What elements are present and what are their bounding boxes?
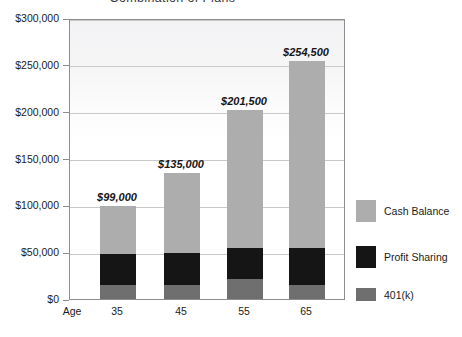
legend-label: 401(k) xyxy=(384,289,414,301)
legend-item: Cash Balance xyxy=(356,200,449,222)
legend-label: Cash Balance xyxy=(384,205,449,217)
y-axis-tick-label: $0 xyxy=(0,293,59,305)
y-axis-tick-label: $200,000 xyxy=(0,106,59,118)
y-axis-tick-mark xyxy=(63,65,69,66)
y-axis-tick-label: $300,000 xyxy=(0,12,59,24)
bar-value-label: $254,500 xyxy=(258,46,354,58)
bar-segment-cash-balance xyxy=(164,173,200,254)
bar-segment-cash-balance xyxy=(227,110,263,247)
bar-segment-401k xyxy=(289,285,325,299)
y-axis-tick-mark xyxy=(63,19,69,20)
bar-segment-profit-sharing xyxy=(100,254,136,285)
bar-stack xyxy=(227,110,263,299)
y-axis-tick-mark xyxy=(63,206,69,207)
bar-segment-profit-sharing xyxy=(227,248,263,280)
y-axis-tick-label: $100,000 xyxy=(0,199,59,211)
y-axis-tick-mark xyxy=(63,112,69,113)
x-axis-tick-label: 55 xyxy=(209,305,279,317)
legend-item: Profit Sharing xyxy=(356,246,448,268)
bar-stack xyxy=(164,173,200,299)
x-axis-tick-label: 45 xyxy=(146,305,216,317)
bar-segment-profit-sharing xyxy=(289,248,325,285)
y-axis-tick-label: $250,000 xyxy=(0,59,59,71)
x-axis-tick-label: 65 xyxy=(271,305,341,317)
bar-stack xyxy=(289,61,325,299)
bar-segment-profit-sharing xyxy=(164,253,200,285)
x-axis-title: Age xyxy=(47,305,97,317)
y-axis-tick-mark xyxy=(63,253,69,254)
y-axis-tick-mark xyxy=(63,300,69,301)
bar-segment-cash-balance xyxy=(289,61,325,248)
bar-segment-401k xyxy=(100,285,136,299)
legend-swatch-401k xyxy=(356,288,376,301)
y-axis-tick-mark xyxy=(63,159,69,160)
legend-label: Profit Sharing xyxy=(384,251,448,263)
bar-segment-401k xyxy=(164,285,200,299)
bar-segment-401k xyxy=(227,279,263,299)
legend-swatch-cash-balance xyxy=(356,200,376,222)
bar-value-label: $201,500 xyxy=(196,95,292,107)
gridline xyxy=(70,20,344,21)
bar-value-label: $135,000 xyxy=(133,158,229,170)
chart-title: Combination of Plans xyxy=(0,0,345,5)
legend-item: 401(k) xyxy=(356,288,414,301)
bar-segment-cash-balance xyxy=(100,206,136,254)
legend-swatch-profit-sharing xyxy=(356,246,376,268)
y-axis-tick-label: $150,000 xyxy=(0,153,59,165)
bar-value-label: $99,000 xyxy=(69,191,165,203)
y-axis-tick-label: $50,000 xyxy=(0,246,59,258)
bar-stack xyxy=(100,206,136,299)
